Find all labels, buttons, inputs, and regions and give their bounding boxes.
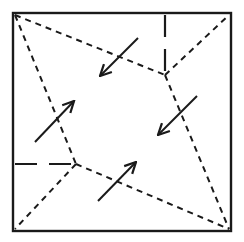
arrow-icon-arrow-top [100, 38, 138, 76]
diagram-svg [0, 0, 244, 242]
arrow-icon-arrow-bottom [98, 162, 136, 201]
fold-line-lower-left-to-bottom-right [76, 164, 229, 229]
arrow-icon-arrow-right [158, 96, 197, 135]
fold-line-top-left-to-lower-left [15, 15, 76, 164]
square-outline [13, 13, 231, 231]
arrow-icon-arrow-left [35, 101, 74, 142]
fold-line-upper-right-to-bottom-right [165, 75, 229, 229]
fold-arrows [35, 38, 197, 201]
folding-diagram [0, 0, 244, 242]
fold-line-top-left-to-upper-right [15, 15, 165, 75]
fold-line-upper-right-to-top-right [165, 15, 229, 75]
fold-line-lower-left-to-bottom-left [15, 164, 76, 229]
mountain-fold-lines [15, 15, 165, 164]
valley-fold-lines [15, 15, 229, 229]
